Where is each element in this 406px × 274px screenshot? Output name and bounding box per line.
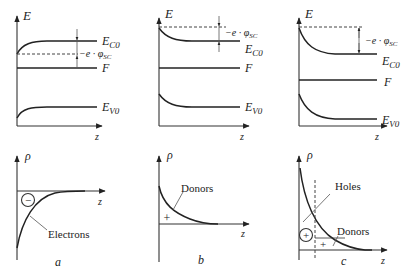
charge-axis-label: ρ [166,148,173,162]
conduction-band-label: EC0 [381,54,400,70]
panel-b-energy-diagram: E z −e · φSC EC0 F EV0 [159,6,263,142]
energy-axis-label: E [22,8,31,23]
donors-annotation: Donors [337,225,369,237]
donor-charge-symbol: + [320,238,326,250]
panel-c-energy-diagram: E z −e · φSC EC0 F EV0 [299,6,400,142]
panel-a-energy-diagram: E z EC0 −e · φSC F EV0 [17,8,120,142]
valence-band-curve [159,94,240,107]
fermi-level-label: F [101,61,110,75]
panel-label-c: c [341,254,347,268]
valence-band-label: EV0 [381,113,400,129]
panel-a-charge-diagram: ρ z − Electrons a [17,149,105,269]
valence-band-label: EV0 [101,100,120,116]
donors-leader-line [173,192,183,210]
electrons-leader-line [30,216,47,230]
fermi-level-label: F [244,61,253,75]
energy-axis-label: E [304,6,313,21]
fermi-level-label: F [383,75,392,89]
panel-c-charge-diagram: ρ z + + Holes Donors c [299,148,387,268]
panel-label-b: b [198,253,204,267]
z-axis-label: z [97,196,102,207]
z-axis-label: z [94,131,99,142]
energy-axis-label: E [164,6,173,21]
panel-label-a: a [55,255,61,269]
positive-charge-symbol: + [164,211,171,225]
holes-annotation: Holes [335,180,361,192]
charge-axis-label: ρ [306,148,313,162]
hole-charge-symbol: + [303,229,309,241]
valence-band-curve [17,107,97,118]
negative-charge-symbol: − [25,194,31,206]
z-axis-label: z [240,228,245,239]
potential-label: −e · φSC [225,27,258,40]
z-axis-label: z [380,255,385,266]
valence-band-label: EV0 [244,100,263,116]
charge-axis-label: ρ [24,149,31,163]
electrons-annotation: Electrons [48,228,90,240]
potential-label: −e · φSC [365,35,398,48]
donors-annotation: Donors [181,182,213,194]
conduction-band-label: EC0 [244,42,263,58]
panel-b-charge-diagram: ρ z + Donors b [159,148,249,267]
z-axis-label: z [239,131,244,142]
potential-label: −e · φSC [79,48,112,61]
z-axis-label: z [374,131,379,142]
conduction-band-label: EC0 [101,34,120,50]
valence-band-curve [299,94,377,119]
